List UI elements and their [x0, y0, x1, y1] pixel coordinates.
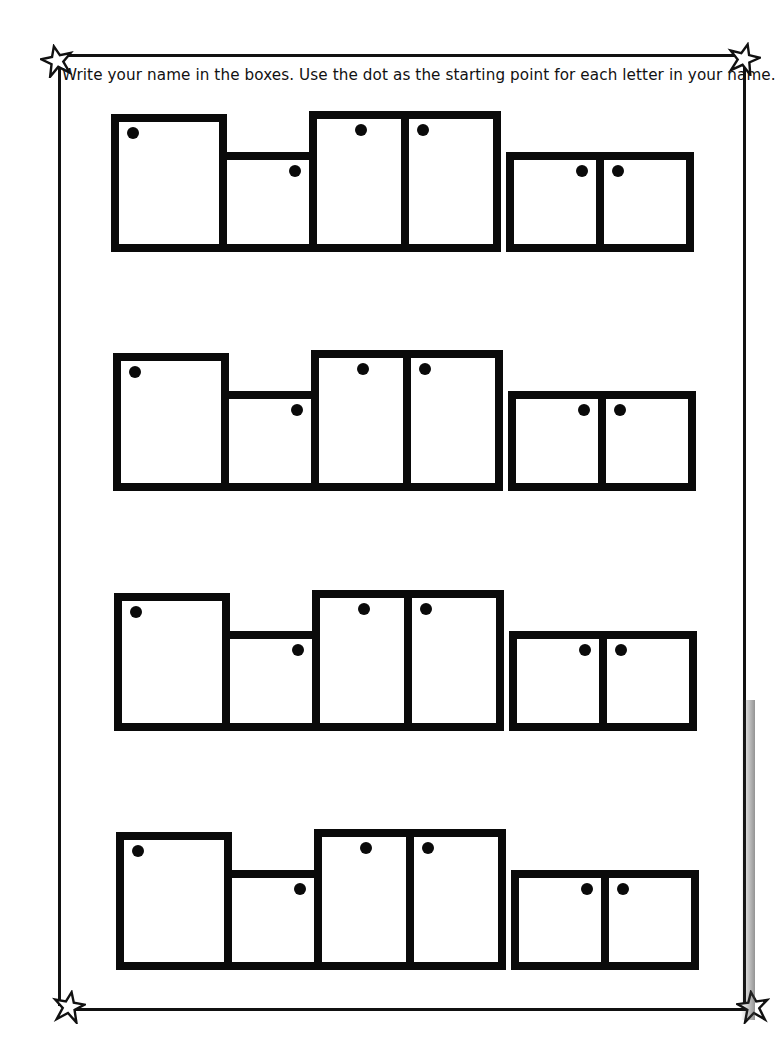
- start-dot-icon: [127, 127, 139, 139]
- letter-box[interactable]: [596, 152, 694, 252]
- start-dot-icon: [130, 606, 142, 618]
- letter-box[interactable]: [599, 631, 697, 731]
- instructions-text: Write your name in the boxes. Use the do…: [62, 66, 776, 84]
- letter-box[interactable]: [401, 111, 501, 252]
- name-row: [0, 593, 755, 743]
- letter-box[interactable]: [311, 350, 411, 491]
- letter-box[interactable]: [111, 114, 227, 252]
- start-dot-icon: [132, 845, 144, 857]
- start-dot-icon: [129, 366, 141, 378]
- start-dot-icon: [578, 404, 590, 416]
- start-dot-icon: [417, 124, 429, 136]
- frame-bottom-line: [66, 1008, 755, 1011]
- name-row: [0, 353, 755, 503]
- letter-box[interactable]: [116, 832, 232, 970]
- letter-box[interactable]: [312, 590, 412, 731]
- start-dot-icon: [291, 404, 303, 416]
- letter-box[interactable]: [222, 631, 320, 731]
- start-dot-icon: [360, 842, 372, 854]
- letter-box[interactable]: [113, 353, 229, 491]
- name-row: [0, 832, 755, 982]
- letter-box[interactable]: [221, 391, 319, 491]
- letter-box[interactable]: [601, 870, 699, 970]
- start-dot-icon: [612, 165, 624, 177]
- start-dot-icon: [579, 644, 591, 656]
- start-dot-icon: [581, 883, 593, 895]
- letter-box[interactable]: [314, 829, 414, 970]
- letter-box[interactable]: [114, 593, 230, 731]
- name-row: [0, 114, 755, 264]
- start-dot-icon: [294, 883, 306, 895]
- start-dot-icon: [420, 603, 432, 615]
- letter-box[interactable]: [511, 870, 609, 970]
- letter-box[interactable]: [509, 631, 607, 731]
- start-dot-icon: [355, 124, 367, 136]
- frame-top-line: [56, 54, 744, 57]
- letter-box[interactable]: [508, 391, 606, 491]
- start-dot-icon: [615, 644, 627, 656]
- letter-box[interactable]: [403, 350, 503, 491]
- start-dot-icon: [289, 165, 301, 177]
- start-dot-icon: [292, 644, 304, 656]
- letter-box[interactable]: [506, 152, 604, 252]
- letter-box[interactable]: [309, 111, 409, 252]
- start-dot-icon: [422, 842, 434, 854]
- letter-box[interactable]: [224, 870, 322, 970]
- letter-box[interactable]: [219, 152, 317, 252]
- letter-box[interactable]: [406, 829, 506, 970]
- letter-box[interactable]: [598, 391, 696, 491]
- start-dot-icon: [614, 404, 626, 416]
- star-icon: [52, 990, 86, 1024]
- start-dot-icon: [419, 363, 431, 375]
- start-dot-icon: [358, 603, 370, 615]
- start-dot-icon: [576, 165, 588, 177]
- start-dot-icon: [357, 363, 369, 375]
- letter-box[interactable]: [404, 590, 504, 731]
- start-dot-icon: [617, 883, 629, 895]
